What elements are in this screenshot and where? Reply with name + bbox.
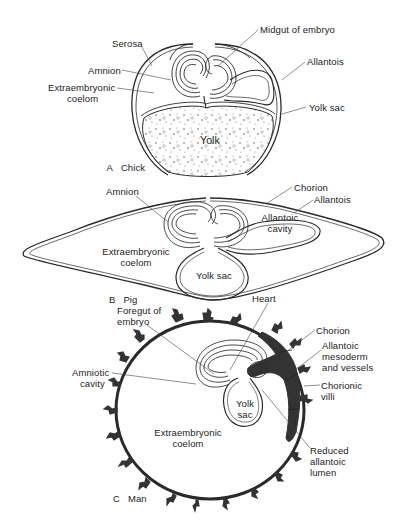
panel-letter-a: A — [106, 162, 112, 173]
label-extraembryonic-coelom-man-line1: Extraembryonic — [148, 427, 228, 438]
panel-letter-b: B — [109, 294, 115, 305]
panel-letter-c: C — [113, 493, 120, 504]
label-reduced-allantoic-lumen-line1: Reduced — [310, 445, 349, 456]
label-allantoic-mesoderm-line3: and vessels — [322, 362, 373, 373]
label-reduced-allantoic-lumen-line2: allantoic — [310, 456, 346, 467]
panel-caption-chick: AChick — [96, 151, 145, 184]
embryonic-membranes-figure: Serosa Midgut of embryo Amnion Allantois… — [0, 0, 409, 523]
label-allantoic-mesoderm-line1: Allantoic — [322, 340, 359, 351]
panel-name-man: Man — [128, 493, 147, 504]
chorionic-villi-shapes — [104, 309, 312, 511]
label-allantois-pig: Allantois — [314, 194, 351, 205]
label-yolk-sac-chick: Yolk sac — [309, 102, 345, 113]
label-amnion-chick: Amnion — [88, 65, 121, 76]
label-reduced-allantoic-lumen-line3: lumen — [310, 467, 336, 478]
label-chorionic-villi-line2: villi — [321, 391, 335, 402]
panel-name-chick: Chick — [121, 162, 145, 173]
label-allantoic-cavity-line1: Allantoic — [256, 212, 304, 223]
label-extraembryonic-coelom-man-line2: coelom — [148, 438, 228, 449]
label-chorionic-villi-line1: Chorionic — [321, 380, 362, 391]
label-amniotic-cavity-line1: Amniotic — [72, 367, 109, 378]
label-foregut-line1: Foregut of — [117, 305, 161, 316]
panel-caption-man: CMan — [102, 482, 147, 515]
label-yolk-sac-pig: Yolk sac — [186, 270, 242, 281]
label-amnion-pig: Amnion — [106, 186, 139, 197]
label-yolk-sac-man-line2: sac — [230, 409, 260, 420]
label-extraembryonic-coelom-pig-line2: coelom — [96, 257, 176, 268]
label-allantoic-cavity-line2: cavity — [256, 223, 304, 234]
panel-pig — [23, 198, 384, 300]
label-chorion-pig: Chorion — [294, 182, 328, 193]
label-extraembryonic-coelom-pig-line1: Extraembryonic — [96, 246, 176, 257]
label-serosa: Serosa — [112, 38, 143, 49]
label-extraembryonic-coelom-chick-line1: Extraembryonic — [48, 82, 115, 93]
panel-name-pig: Pig — [123, 294, 137, 305]
label-amniotic-cavity-line2: cavity — [80, 378, 105, 389]
label-yolk-sac-man-line1: Yolk — [230, 398, 260, 409]
label-foregut-line2: embryo — [117, 316, 149, 327]
panel-man — [104, 309, 312, 511]
label-yolk: Yolk — [200, 135, 220, 146]
label-allantois-chick: Allantois — [307, 56, 344, 67]
label-heart: Heart — [252, 293, 276, 304]
label-allantoic-mesoderm-line2: mesoderm — [322, 351, 368, 362]
panel-chick — [132, 44, 281, 177]
label-extraembryonic-coelom-chick-line2: coelom — [67, 93, 98, 104]
label-midgut-of-embryo: Midgut of embryo — [260, 24, 335, 35]
label-chorion-man: Chorion — [316, 325, 350, 336]
